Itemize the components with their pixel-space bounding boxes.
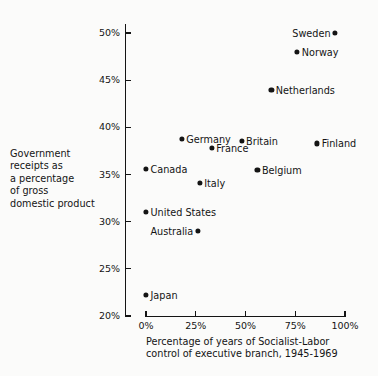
- data-point: [332, 30, 337, 35]
- y-tick-mark: [125, 32, 131, 33]
- data-point-label: France: [216, 143, 248, 154]
- y-axis-title-line: receipts as: [10, 160, 120, 172]
- data-point-label: Norway: [302, 46, 339, 57]
- data-point: [143, 210, 148, 215]
- y-tick-label: 25%: [60, 263, 120, 274]
- data-point: [179, 136, 184, 141]
- x-tick-label: 25%: [185, 320, 206, 331]
- data-point: [143, 166, 148, 171]
- x-tick-label: 50%: [235, 320, 256, 331]
- data-point: [143, 293, 148, 298]
- x-tick-label: 100%: [331, 320, 358, 331]
- y-axis-title-line: domestic product: [10, 198, 120, 210]
- x-tick-label: 0%: [138, 320, 153, 331]
- y-tick-mark: [125, 221, 131, 222]
- y-tick-label: 40%: [60, 121, 120, 132]
- y-tick-label: 45%: [60, 74, 120, 85]
- y-tick-label: 20%: [60, 310, 120, 321]
- data-point: [295, 49, 300, 54]
- data-point-label: Britain: [246, 135, 278, 146]
- scatter-plot-figure: 20%25%30%35%40%45%50% 0%25%50%75%100% Sw…: [0, 0, 378, 376]
- x-tick-mark: [195, 311, 196, 317]
- data-point-label: Japan: [151, 290, 178, 301]
- data-point-label: United States: [151, 207, 217, 218]
- x-axis-title-line: Percentage of years of Socialist-Labor: [146, 336, 376, 348]
- data-point: [255, 167, 260, 172]
- x-tick-mark: [295, 311, 296, 317]
- data-point: [269, 87, 274, 92]
- data-point-label: Finland: [322, 138, 357, 149]
- x-axis-title-line: control of executive branch, 1945-1969: [146, 348, 376, 360]
- y-axis-title-line: a percentage: [10, 173, 120, 185]
- y-axis-line: [125, 24, 126, 317]
- x-tick-label: 75%: [285, 320, 306, 331]
- x-axis-title: Percentage of years of Socialist-Laborco…: [146, 336, 376, 361]
- data-point-label: Belgium: [262, 164, 302, 175]
- data-point: [197, 180, 202, 185]
- data-point-label: Australia: [150, 226, 193, 237]
- y-tick-mark: [125, 315, 131, 316]
- x-tick-mark: [145, 311, 146, 317]
- y-tick-mark: [125, 174, 131, 175]
- y-tick-label: 50%: [60, 27, 120, 38]
- data-point-label: Sweden: [292, 28, 330, 39]
- data-point-label: Canada: [151, 163, 188, 174]
- data-point-label: Netherlands: [276, 84, 335, 95]
- x-tick-mark: [344, 311, 345, 317]
- y-tick-mark: [125, 80, 131, 81]
- y-tick-mark: [125, 268, 131, 269]
- x-tick-mark: [245, 311, 246, 317]
- data-point: [195, 229, 200, 234]
- data-point: [209, 145, 214, 150]
- y-tick-mark: [125, 127, 131, 128]
- y-axis-title-line: of gross: [10, 185, 120, 197]
- data-point: [315, 141, 320, 146]
- data-point-label: Italy: [204, 177, 225, 188]
- y-axis-title: Governmentreceipts asa percentageof gros…: [10, 148, 120, 210]
- y-tick-label: 30%: [60, 216, 120, 227]
- y-axis-title-line: Government: [10, 148, 120, 160]
